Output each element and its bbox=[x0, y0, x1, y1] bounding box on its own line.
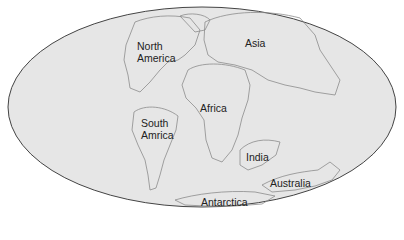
label-south-america: South Amrica bbox=[141, 117, 174, 141]
label-australia: Australia bbox=[270, 177, 311, 189]
label-africa: Africa bbox=[200, 102, 227, 114]
label-asia: Asia bbox=[245, 37, 265, 49]
label-india: India bbox=[246, 151, 269, 163]
label-antarctica: Antarctica bbox=[201, 196, 248, 208]
label-north-america: North America bbox=[137, 40, 176, 64]
